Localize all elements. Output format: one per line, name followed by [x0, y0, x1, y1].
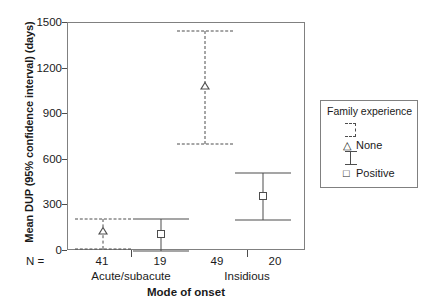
x-group-label-acute: Acute/subacute	[91, 270, 170, 282]
y-tick-label: 1200	[18, 62, 62, 74]
x-group-label-insidious: Insidious	[224, 270, 269, 282]
legend-entry-positive: □Positive	[343, 167, 395, 179]
legend: Family experience △None □Positive	[320, 100, 418, 188]
y-tick-label: 900	[18, 107, 62, 119]
marker-triangle	[200, 82, 210, 90]
marker-triangle	[98, 227, 108, 235]
n-label: 19	[154, 255, 167, 267]
chart-figure: Mean DUP (95% confidence interval) (days…	[0, 0, 424, 304]
error-cap-lower	[235, 220, 291, 221]
y-tick-label: 300	[18, 198, 62, 210]
marker-square	[259, 192, 267, 200]
x-axis-group-divider	[131, 250, 132, 257]
plot-area	[67, 22, 305, 250]
plot-inner	[68, 23, 304, 249]
marker-square	[157, 230, 165, 238]
square-icon: □	[343, 167, 356, 179]
n-prefix-label: N =	[26, 255, 44, 267]
n-label: 20	[269, 255, 282, 267]
legend-symbol-dashed-bracket	[345, 123, 356, 137]
y-tick-label: 600	[18, 153, 62, 165]
x-axis-group-divider	[247, 250, 248, 257]
legend-symbol-solid-ibar	[345, 151, 357, 165]
error-cap-lower	[75, 249, 131, 250]
legend-label-positive: Positive	[356, 167, 395, 179]
n-label: 41	[96, 255, 109, 267]
legend-title: Family experience	[327, 105, 412, 117]
y-tick-mark	[62, 250, 67, 251]
error-cap-lower	[133, 251, 189, 252]
y-tick-label: 1500	[18, 16, 62, 28]
x-axis-label: Mode of onset	[67, 286, 305, 298]
legend-label-none: None	[356, 139, 382, 151]
error-cap-lower	[177, 144, 233, 145]
n-label: 49	[211, 255, 224, 267]
